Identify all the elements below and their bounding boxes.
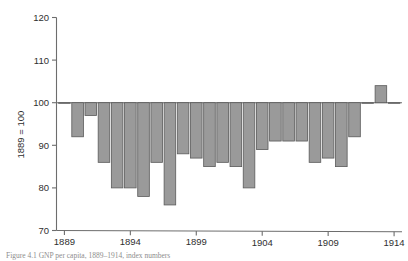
bar-1890 bbox=[72, 103, 84, 137]
x-axis-line bbox=[57, 231, 403, 232]
y-axis-title: 1889 = 100 bbox=[15, 111, 26, 159]
bar-1910 bbox=[336, 103, 348, 167]
y-tick-label: 90 bbox=[38, 140, 49, 151]
x-tick-label: 1914 bbox=[384, 237, 405, 248]
bar-1906 bbox=[283, 103, 295, 141]
bar-1907 bbox=[296, 103, 308, 141]
figure-caption: Figure 4.1 GNP per capita, 1889–1914, in… bbox=[6, 251, 404, 260]
bar-1894 bbox=[125, 103, 137, 188]
y-tick-label: 110 bbox=[34, 55, 49, 66]
bar-1901 bbox=[217, 103, 229, 163]
bar-1899 bbox=[190, 103, 202, 158]
bar-1914 bbox=[388, 103, 400, 104]
x-tick-label: 1899 bbox=[186, 236, 207, 247]
y-tick-label: 100 bbox=[33, 97, 49, 108]
bar-1909 bbox=[322, 103, 334, 158]
bar-1893 bbox=[111, 103, 123, 188]
bars-group bbox=[59, 86, 400, 205]
bar-1904 bbox=[256, 103, 268, 150]
bar-1900 bbox=[204, 103, 216, 167]
bar-chart: 7080901001101201889189418991904190919141… bbox=[0, 0, 408, 261]
bar-1913 bbox=[375, 86, 387, 103]
bar-1905 bbox=[270, 103, 282, 141]
bar-1912 bbox=[362, 103, 374, 104]
x-tick-label: 1894 bbox=[120, 236, 141, 247]
bar-1911 bbox=[349, 103, 361, 137]
bar-1889 bbox=[59, 103, 71, 104]
bar-1892 bbox=[98, 103, 110, 163]
bar-1903 bbox=[243, 103, 255, 188]
bar-1908 bbox=[309, 103, 321, 163]
bar-1896 bbox=[151, 103, 163, 163]
x-tick-label: 1909 bbox=[318, 237, 339, 248]
y-tick-label: 120 bbox=[33, 12, 49, 23]
bar-1897 bbox=[164, 103, 176, 205]
figure-container: 7080901001101201889189418991904190919141… bbox=[0, 0, 408, 261]
y-tick-label: 80 bbox=[38, 182, 49, 193]
x-tick-label: 1904 bbox=[252, 237, 273, 248]
bar-1891 bbox=[85, 103, 97, 116]
x-tick-label: 1889 bbox=[54, 236, 75, 247]
y-tick-label: 70 bbox=[38, 225, 49, 236]
bar-1895 bbox=[138, 103, 150, 197]
bar-1902 bbox=[230, 103, 242, 167]
bar-1898 bbox=[177, 103, 189, 154]
